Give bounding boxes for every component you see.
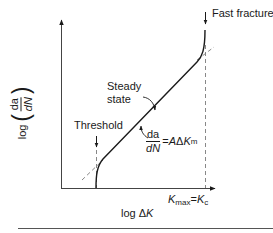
- equation-K: K: [183, 136, 190, 147]
- equation-delta: Δ: [176, 136, 183, 147]
- x-axis-log-text: log: [121, 207, 136, 219]
- crack-growth-diagram: [0, 0, 273, 233]
- steady-state-line1: Steady: [107, 80, 141, 93]
- equation-fraction: da dN: [146, 129, 160, 154]
- kc-sub: c: [204, 198, 208, 207]
- threshold-label: Threshold: [74, 120, 123, 131]
- y-axis-denominator: dN: [22, 97, 34, 111]
- power-law-equation: da dN = A Δ K m: [146, 129, 197, 154]
- y-axis-label: log ( da dN ): [6, 66, 36, 160]
- equation-denominator: dN: [146, 142, 160, 154]
- equation-A: A: [169, 136, 176, 147]
- kmax-kc-label: Kmax=Kc: [168, 194, 208, 207]
- y-axis-log-text: log: [15, 125, 27, 140]
- steady-state-label: Steady state: [107, 80, 141, 106]
- fast-fracture-label: Fast fracture: [212, 8, 273, 19]
- steady-state-line2: state: [107, 93, 141, 106]
- crack-growth-curve: [96, 30, 205, 188]
- kmax-sub: max: [175, 198, 190, 207]
- equation-numerator: da: [146, 129, 160, 142]
- y-axis-numerator: da: [9, 97, 22, 111]
- y-axis-fraction: da dN: [9, 97, 34, 111]
- x-axis-variable: K: [146, 207, 153, 219]
- x-axis-label: log ΔK: [121, 208, 153, 219]
- equation-exponent: m: [191, 138, 198, 146]
- x-axis-delta: Δ: [139, 207, 146, 219]
- right-paren: ): [9, 87, 33, 94]
- left-paren: (: [9, 114, 33, 121]
